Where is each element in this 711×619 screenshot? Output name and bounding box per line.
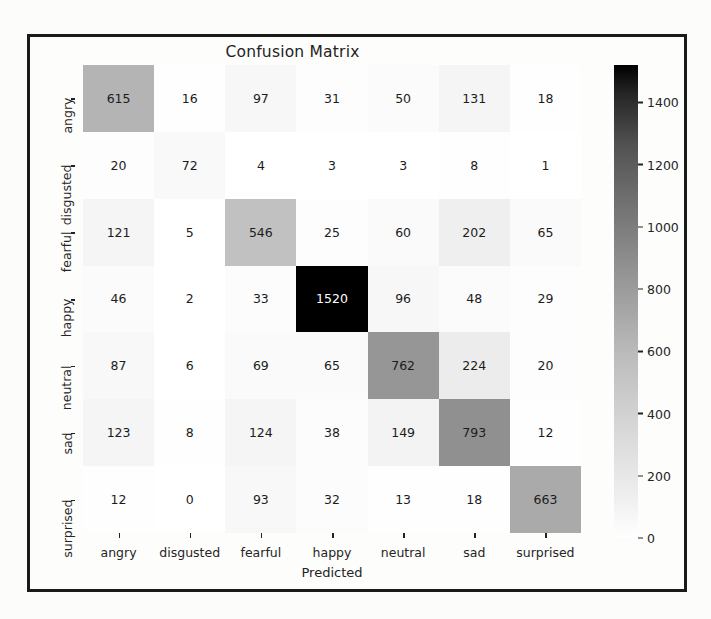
heatmap-cell: 38 [296, 399, 367, 466]
heatmap-cell: 131 [439, 65, 510, 132]
heatmap-cell: 3 [368, 132, 439, 199]
heatmap-cell: 663 [510, 466, 581, 533]
x-tick-label-sad: sad [439, 545, 510, 560]
heatmap-cell: 69 [225, 332, 296, 399]
colorbar-tick-mark [638, 413, 643, 415]
heatmap-cell: 16 [154, 65, 225, 132]
x-tick-mark [119, 533, 121, 538]
colorbar-gradient [614, 65, 638, 538]
y-tick-label-angry: angry [60, 98, 75, 134]
colorbar-tick-1200: 1200 [638, 157, 679, 172]
heatmap-cell: 48 [439, 266, 510, 333]
heatmap-cell: 50 [368, 65, 439, 132]
heatmap-row: 207243381 [83, 132, 581, 199]
heatmap-cell: 224 [439, 332, 510, 399]
heatmap-cell: 2 [154, 266, 225, 333]
confusion-matrix-heatmap: 6151697315013118207243381121554625602026… [83, 65, 581, 533]
y-axis-tick-labels: angrydisgustedfearfulhappyneutralsadsurp… [30, 65, 75, 533]
heatmap-cell: 546 [225, 199, 296, 266]
heatmap-row: 12381243814979312 [83, 399, 581, 466]
x-tick-label-fearful: fearful [225, 545, 296, 560]
colorbar-tick-mark [638, 226, 643, 228]
colorbar-tick-label: 200 [647, 468, 671, 483]
heatmap-cell: 32 [296, 466, 367, 533]
heatmap-cell: 12 [510, 399, 581, 466]
heatmap-cell: 8 [154, 399, 225, 466]
heatmap-cell: 65 [510, 199, 581, 266]
y-tick-label-disgusted: disgusted [60, 165, 75, 226]
x-tick-mark [545, 533, 547, 538]
heatmap-cell: 202 [439, 199, 510, 266]
colorbar-tick-label: 800 [647, 282, 671, 297]
colorbar-tick-labels: 0200400600800100012001400 [638, 65, 698, 538]
y-tick-mark [71, 98, 75, 100]
heatmap-cell: 793 [439, 399, 510, 466]
x-tick-label-surprised: surprised [510, 545, 581, 560]
y-tick-mark [71, 232, 75, 234]
heatmap-cell: 46 [83, 266, 154, 333]
colorbar-tick-800: 800 [638, 282, 671, 297]
heatmap-cell: 615 [83, 65, 154, 132]
heatmap-cell: 124 [225, 399, 296, 466]
x-tick-mark [261, 533, 263, 538]
heatmap-cell: 65 [296, 332, 367, 399]
x-tick-label-neutral: neutral [368, 545, 439, 560]
x-tick-label-angry: angry [83, 545, 154, 560]
colorbar-tick-1000: 1000 [638, 219, 679, 234]
heatmap-cell: 1520 [296, 266, 367, 333]
y-tick-mark [71, 299, 75, 301]
heatmap-cell: 60 [368, 199, 439, 266]
heatmap-row: 12093321318663 [83, 466, 581, 533]
heatmap-cell: 5 [154, 199, 225, 266]
x-axis-title: Predicted [83, 565, 581, 580]
heatmap-row: 876696576222420 [83, 332, 581, 399]
y-tick-mark [71, 500, 75, 502]
heatmap-cell: 25 [296, 199, 367, 266]
heatmap-cell: 12 [83, 466, 154, 533]
heatmap-cell: 13 [368, 466, 439, 533]
figure-panel: Confusion Matrix Actual angrydisgustedfe… [27, 34, 687, 592]
heatmap-cell: 33 [225, 266, 296, 333]
colorbar-tick-0: 0 [638, 531, 655, 546]
heatmap-row: 1215546256020265 [83, 199, 581, 266]
heatmap-cell: 20 [83, 132, 154, 199]
colorbar-tick-label: 0 [647, 531, 655, 546]
heatmap-cell: 762 [368, 332, 439, 399]
x-tick-label-happy: happy [296, 545, 367, 560]
y-tick-label-fearful: fearful [60, 232, 75, 273]
x-tick-label-disgusted: disgusted [154, 545, 225, 560]
heatmap-cell: 18 [510, 65, 581, 132]
heatmap-cell: 96 [368, 266, 439, 333]
heatmap-cell: 6 [154, 332, 225, 399]
colorbar-tick-200: 200 [638, 468, 671, 483]
x-axis-tick-labels: angrydisgustedfearfulhappyneutralsadsurp… [83, 533, 581, 567]
colorbar-tick-label: 1000 [647, 219, 679, 234]
colorbar-tick-1400: 1400 [638, 95, 679, 110]
y-tick-mark [71, 165, 75, 167]
heatmap-cell: 31 [296, 65, 367, 132]
chart-title: Confusion Matrix [30, 43, 555, 61]
colorbar-tick-400: 400 [638, 406, 671, 421]
heatmap-cell: 72 [154, 132, 225, 199]
heatmap-row: 462331520964829 [83, 266, 581, 333]
heatmap-cell: 149 [368, 399, 439, 466]
colorbar-tick-label: 400 [647, 406, 671, 421]
heatmap-cell: 4 [225, 132, 296, 199]
colorbar-tick-label: 1400 [647, 95, 679, 110]
heatmap-cell: 121 [83, 199, 154, 266]
heatmap-cell: 3 [296, 132, 367, 199]
heatmap-cell: 0 [154, 466, 225, 533]
y-tick-mark [71, 433, 75, 435]
y-tick-mark [71, 366, 75, 368]
heatmap-cell: 29 [510, 266, 581, 333]
heatmap-cell: 20 [510, 332, 581, 399]
colorbar-tick-mark [638, 164, 643, 166]
colorbar-tick-mark [638, 102, 643, 104]
heatmap-row: 6151697315013118 [83, 65, 581, 132]
heatmap-cell: 97 [225, 65, 296, 132]
y-axis-title: Actual [38, 0, 54, 65]
colorbar-tick-mark [638, 537, 643, 539]
x-tick-mark [403, 533, 405, 538]
heatmap-cell: 8 [439, 132, 510, 199]
y-tick-label-sad: sad [60, 432, 75, 454]
